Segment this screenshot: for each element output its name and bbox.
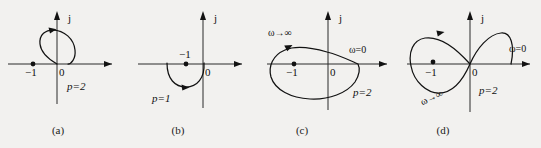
- imaginary-axis-label-b: j: [214, 12, 217, 24]
- caption-b: (b): [158, 124, 198, 136]
- caption-d: (d): [423, 124, 463, 136]
- panel-c: j ω→∞ ω=0 −1 0 p=2 (c): [265, 0, 405, 148]
- panel-b: j −1 0 p=1 (b): [130, 0, 265, 148]
- imaginary-axis-a: [54, 11, 60, 104]
- imaginary-axis-label-c: j: [339, 12, 342, 24]
- panel-a: j −1 0 p=2 (a): [0, 0, 130, 148]
- pole-count-label-a: p=2: [67, 80, 85, 92]
- critical-point-label-c: −1: [286, 66, 298, 78]
- panel-d: j ω=0 −1 0 ω→∞ p=2 (d): [405, 0, 541, 148]
- origin-label-b: 0: [205, 66, 211, 78]
- pole-count-label-d: p=2: [479, 84, 497, 96]
- critical-point-label-a: −1: [25, 66, 37, 78]
- critical-point-dot-d: [431, 60, 436, 65]
- nyquist-curve-a: [40, 30, 75, 64]
- nyquist-plot-figure: j −1 0 p=2 (a) j −1 0 p=1 (b): [0, 0, 541, 148]
- nyquist-curve-c: [270, 47, 359, 99]
- direction-arrow-d: [436, 31, 444, 37]
- origin-label-d: 0: [472, 66, 478, 78]
- pole-count-label-c: p=2: [353, 86, 371, 98]
- imaginary-axis-label-a: j: [68, 12, 71, 24]
- direction-arrow-b: [182, 85, 190, 91]
- origin-label-c: 0: [330, 66, 336, 78]
- critical-point-label-d: −1: [425, 66, 437, 78]
- pole-count-label-b: p=1: [152, 92, 170, 104]
- critical-point-dot-b: [184, 62, 189, 67]
- real-axis-b: [138, 61, 242, 67]
- omega-infinity-label-c: ω→∞: [268, 27, 292, 38]
- origin-label-a: 0: [59, 66, 65, 78]
- nyquist-curve-b: [167, 63, 204, 87]
- caption-c: (c): [282, 124, 322, 136]
- omega-zero-label-c: ω=0: [349, 44, 366, 55]
- imaginary-axis-c: [325, 11, 331, 110]
- omega-zero-label-d: ω=0: [509, 43, 526, 54]
- imaginary-axis-label-d: j: [481, 12, 484, 24]
- imaginary-axis-b: [200, 11, 206, 108]
- caption-a: (a): [38, 124, 78, 136]
- critical-point-label-b: −1: [179, 48, 191, 60]
- real-axis-c: [267, 61, 387, 67]
